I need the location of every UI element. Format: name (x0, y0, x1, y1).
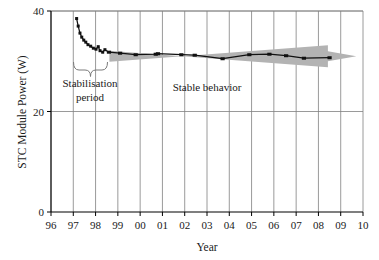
x-tick-label-08: 08 (313, 219, 325, 231)
x-tick-label-99: 99 (112, 219, 124, 231)
data-point-marker (97, 45, 100, 48)
data-point-marker (284, 54, 288, 57)
data-point-marker (89, 45, 92, 48)
x-tick-label-05: 05 (246, 219, 258, 231)
stable-behavior-arrow-band (109, 45, 356, 67)
annotation-stabilisation-line1: Stabilisation (63, 77, 119, 89)
y-tick-labels: 02040 (33, 5, 45, 218)
x-tick-label-04: 04 (224, 219, 236, 231)
x-tick-label-10: 10 (358, 219, 370, 231)
data-point-marker (86, 43, 89, 46)
data-point-marker (302, 57, 306, 60)
x-tick-label-06: 06 (268, 219, 280, 231)
annotation-stabilisation-line2: period (76, 91, 105, 103)
data-point-marker (75, 17, 78, 20)
data-point-marker (107, 51, 111, 54)
stabilisation-brace (74, 62, 108, 77)
data-point-marker (80, 36, 83, 39)
x-tick-labels: 969798990001020304050607080910 (46, 219, 370, 231)
x-tick-label-00: 00 (135, 219, 147, 231)
x-tick-label-03: 03 (202, 219, 214, 231)
x-tick-label-02: 02 (179, 219, 190, 231)
data-point-marker (193, 54, 197, 57)
data-point-marker (221, 57, 225, 60)
y-tick-label-0: 0 (39, 206, 45, 218)
chart-figure: 969798990001020304050607080910 02040 Yea… (0, 0, 379, 260)
x-tick-label-07: 07 (291, 219, 303, 231)
plot-axes (47, 11, 363, 216)
data-point-marker (156, 52, 160, 55)
x-tick-label-97: 97 (68, 219, 80, 231)
data-point-marker (327, 56, 331, 59)
x-tick-label-96: 96 (46, 219, 58, 231)
data-point-marker (103, 48, 106, 51)
data-point-marker (267, 53, 271, 56)
data-point-marker (92, 47, 95, 50)
stc-module-power-chart: 969798990001020304050607080910 02040 Yea… (0, 0, 379, 260)
x-tick-label-01: 01 (157, 219, 168, 231)
y-axis-label: STC Module Power (W) (16, 55, 29, 169)
data-point-marker (247, 53, 251, 56)
x-tick-label-98: 98 (90, 219, 102, 231)
y-tick-label-20: 20 (33, 106, 45, 118)
annotation-stable-behavior: Stable behavior (173, 81, 242, 93)
x-tick-label-09: 09 (335, 219, 347, 231)
y-tick-label-40: 40 (33, 5, 45, 17)
data-point-marker (179, 53, 183, 56)
data-point-marker (134, 53, 138, 56)
data-point-marker (99, 49, 102, 52)
data-point-marker (118, 52, 122, 55)
data-point-marker (77, 25, 80, 28)
x-axis-label: Year (196, 241, 217, 253)
data-point-marker (78, 32, 81, 35)
